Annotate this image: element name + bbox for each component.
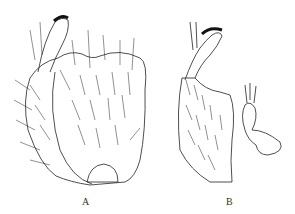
figure: A B bbox=[0, 0, 295, 214]
panel-a-drawing bbox=[0, 0, 295, 214]
panel-b-label: B bbox=[226, 196, 233, 207]
panel-a-label: A bbox=[82, 196, 89, 207]
